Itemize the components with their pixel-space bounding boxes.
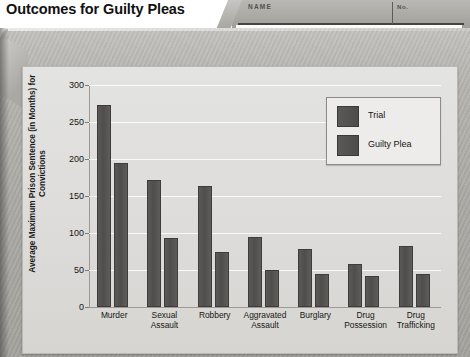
legend-swatch [337, 135, 359, 156]
bar-trial [298, 249, 312, 307]
bar-guilty-plea [315, 274, 329, 307]
folder-tab-name-label: NAME [248, 3, 272, 10]
bar-guilty-plea [365, 276, 379, 307]
bar-guilty-plea [416, 274, 430, 307]
folder-edge-shadow [0, 28, 9, 357]
legend-label: Trial [368, 110, 385, 120]
bar-group [246, 85, 288, 307]
bar-trial [97, 105, 111, 307]
y-tick-mark [85, 307, 89, 308]
bar-trial [399, 246, 413, 307]
y-tick-mark [85, 196, 89, 197]
x-axis-label: DrugTrafficking [384, 311, 448, 331]
y-tick-label: 200 [69, 154, 84, 164]
y-axis-title: Average Maximum Prison Sentence (in Mont… [28, 58, 47, 290]
bar-trial [147, 180, 161, 307]
bar-group [95, 85, 137, 307]
bar-guilty-plea [215, 252, 229, 308]
y-tick-label: 300 [69, 80, 84, 90]
folder-tab-divider [392, 2, 393, 24]
y-tick-mark [85, 85, 89, 86]
bar-guilty-plea [114, 163, 128, 307]
bar-group [196, 85, 238, 307]
bar-chart: Average Maximum Prison Sentence (in Mont… [22, 66, 458, 354]
folder-top-highlight [8, 28, 470, 31]
bar-guilty-plea [265, 270, 279, 307]
x-axis-line [89, 307, 441, 308]
y-tick-mark [85, 270, 89, 271]
bar-trial [348, 264, 362, 307]
y-tick-mark [85, 233, 89, 234]
legend-swatch [337, 106, 359, 127]
y-tick-label: 250 [69, 117, 84, 127]
y-tick-mark [85, 122, 89, 123]
y-tick-label: 100 [69, 228, 84, 238]
bar-trial [198, 186, 212, 307]
legend-label: Guilty Plea [368, 139, 412, 149]
y-tick-mark [85, 159, 89, 160]
bar-trial [248, 237, 262, 307]
chart-legend: TrialGuilty Plea [326, 97, 441, 165]
bar-group [145, 85, 187, 307]
bar-guilty-plea [164, 238, 178, 307]
page-title: Outcomes for Guilty Pleas [6, 1, 185, 17]
folder-tab-no-label: No. [397, 4, 408, 10]
y-tick-label: 150 [69, 191, 84, 201]
file-folder-graphic: NAME No. Average Maximum Prison Sentence… [0, 18, 470, 357]
y-tick-label: 50 [74, 265, 84, 275]
